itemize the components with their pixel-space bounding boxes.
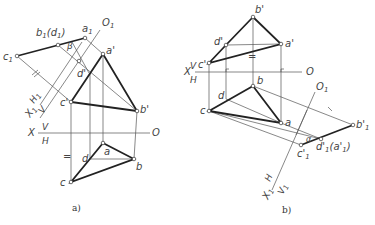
angle-alpha: α [306,135,312,144]
figure-a: X V H O O1 X1 H1 V = [3,17,160,213]
x1-axis-end-b: O1 [316,81,328,94]
label-a-prime-b: a' [285,38,294,49]
label-b-b: b [257,75,263,86]
x-axis-upper-a: V [42,122,49,132]
caption-a: a) [72,203,81,213]
equal-mark-a: = [63,151,71,162]
x-axis-upper-b: V [190,61,197,71]
x1-axis-label-b: X1 [259,186,276,203]
x-axis-label-a: X [27,127,36,138]
label-a-prime-a: a' [106,45,115,56]
label-a-a: a [104,146,110,157]
label-d-prime-b: d' [214,36,223,47]
proj-d-d1 [209,111,321,139]
proj-b [134,111,137,159]
x1-axis-end-a: O1 [102,17,114,30]
proj-a1-a-prime [85,38,103,54]
label-b1-prime: b'1 [356,119,370,132]
label-d1a1: d'1(a'1) [316,141,351,154]
label-b-a: b [136,161,142,172]
x-axis-end-b: O [306,66,314,77]
label-a-b: a [285,117,291,128]
line-d-prime-a-prime [226,44,281,45]
descriptive-geometry-figure: X V H O O1 X1 H1 V = [0,0,375,225]
x-axis-lower-b: H [190,75,197,85]
label-b-prime-a: b' [140,104,149,115]
x1-axis-lower-a: V [36,104,48,115]
label-c-b: c [200,105,206,116]
x1-axis-lower-b: V1 [276,182,291,197]
label-c1: c1 [3,51,13,64]
tick-b [328,107,332,111]
label-b1d1: b1(d1) [36,27,65,40]
label-c1-prime: c'1 [297,148,310,161]
label-c-prime-b: c' [198,59,206,70]
x-axis-end-a: O [152,127,160,138]
proj-c1-c-prime [17,56,71,102]
x1-axis-upper-b: H [263,172,275,182]
x-axis-lower-a: H [42,136,49,146]
label-d-a: d [82,153,89,164]
figure-b: X V H O O1 H X1 V1 = [183,4,370,215]
label-d-prime-a: d' [77,68,86,79]
label-c-prime-a: c' [60,97,68,108]
x1-axis-label-a: X1 [22,104,40,121]
label-c-a: c [60,177,66,188]
triangle-h-a [71,143,134,182]
caption-b: b) [282,205,291,215]
angle-beta: β [66,41,73,51]
label-d-b: d [218,90,225,101]
label-b-prime-b: b' [255,4,264,15]
label-a1: a1 [82,23,93,36]
